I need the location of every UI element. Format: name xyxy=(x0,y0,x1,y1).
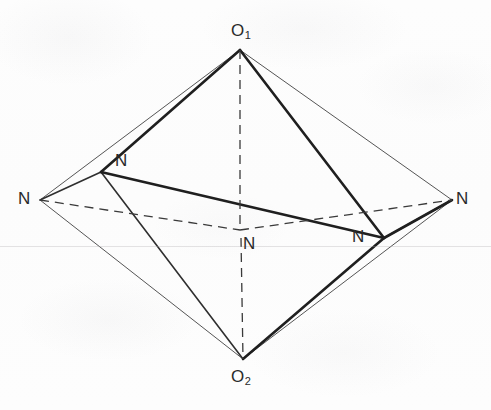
label-o2-apex: O2 xyxy=(231,368,250,385)
figure-container: O1O2NNNNN xyxy=(0,0,491,410)
edge-o1-n-right xyxy=(240,50,452,200)
label-n-left-outer: N xyxy=(18,190,30,207)
element-symbol: N xyxy=(243,234,255,253)
edge-n-center-n-right-hidden xyxy=(240,200,452,230)
edge-n-lower-n-right xyxy=(384,200,452,238)
element-symbol: N xyxy=(352,227,364,246)
octahedron-diagram xyxy=(0,0,491,410)
label-n-right-outer: N xyxy=(456,190,468,207)
edge-o2-n-lower xyxy=(243,238,384,359)
medium-edge-group xyxy=(40,172,452,359)
label-n-upper-inner: N xyxy=(115,152,127,169)
edge-n-left-n-center-hidden xyxy=(40,200,240,230)
element-subscript: 2 xyxy=(245,375,251,387)
element-symbol: N xyxy=(115,151,127,170)
edge-o2-n-right xyxy=(243,200,452,359)
label-n-center-rear: N xyxy=(243,235,255,252)
edge-o1-n-left xyxy=(40,50,240,200)
element-subscript: 1 xyxy=(245,29,251,41)
element-symbol: N xyxy=(456,189,468,208)
element-symbol: O xyxy=(231,367,244,386)
element-symbol: O xyxy=(231,21,244,40)
label-o1-apex: O1 xyxy=(231,22,250,39)
element-symbol: N xyxy=(18,189,30,208)
edge-n-upper-n-left xyxy=(40,172,101,200)
bold-edge-group xyxy=(101,50,452,359)
edge-o2-n-left xyxy=(40,200,243,359)
label-n-lower-inner: N xyxy=(352,228,364,245)
edge-o2-n-center-hidden xyxy=(241,238,243,359)
